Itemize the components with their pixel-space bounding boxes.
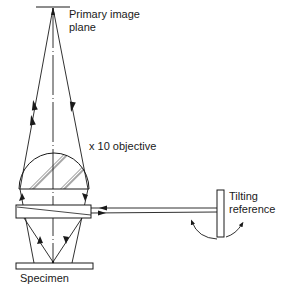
arrow-down-icon xyxy=(68,102,76,113)
tilting-reference-label-line2: reference xyxy=(229,203,275,216)
arrow-left-icon xyxy=(99,206,107,211)
tilt-arrow-right-icon xyxy=(226,224,242,237)
arrow-right-icon xyxy=(98,211,106,216)
primary-image-plane-label-line2: plane xyxy=(69,21,140,34)
specimen-focus-point xyxy=(52,261,54,263)
ray-right-mid xyxy=(72,189,88,263)
tilting-reference-label-line1: Tilting xyxy=(229,190,275,203)
tilting-reference xyxy=(217,190,224,237)
specimen-label: Specimen xyxy=(20,272,69,285)
arrow-down-icon xyxy=(63,236,69,244)
primary-image-plane-label-line1: Primary image xyxy=(69,8,140,21)
arrow-up-icon xyxy=(30,100,38,111)
objective-lens xyxy=(19,150,91,190)
beam-to-reference xyxy=(91,212,217,213)
glass-plate xyxy=(16,205,91,218)
primary-image-plane-label: Primary image plane xyxy=(69,8,140,34)
arrow-up-icon xyxy=(37,236,43,244)
specimen xyxy=(16,263,93,269)
objective-label: x 10 objective xyxy=(89,140,156,153)
arrow-up-icon xyxy=(19,193,25,201)
ray-left-mid xyxy=(20,189,34,263)
tilt-arrow-left-icon xyxy=(192,222,217,239)
arrow-up-icon xyxy=(28,115,36,126)
tilting-reference-label: Tilting reference xyxy=(229,190,275,216)
